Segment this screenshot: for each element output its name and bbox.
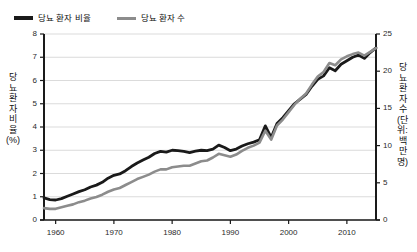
y-axis-right-title: 당뇨 환자 수(단위: 백만 명) bbox=[396, 62, 409, 167]
plot-area: 012345678 0510152025 1960197019801990200… bbox=[0, 0, 417, 252]
y-left-tick-2: 2 bbox=[25, 169, 37, 178]
y-left-tick-6: 6 bbox=[25, 76, 37, 85]
diabetes-trend-chart: 당뇨 환자 비율 당뇨 환자 수 012345678 0510152025 19… bbox=[0, 0, 417, 252]
y-left-tick-7: 7 bbox=[25, 52, 37, 61]
y-left-tick-3: 3 bbox=[25, 145, 37, 154]
y-left-tick-8: 8 bbox=[25, 29, 37, 38]
x-tick-1960: 1960 bbox=[39, 228, 73, 237]
series-lines bbox=[44, 48, 376, 209]
x-tick-2010: 2010 bbox=[330, 228, 364, 237]
y-left-tick-0: 0 bbox=[25, 215, 37, 224]
y-right-tick-25: 25 bbox=[383, 29, 399, 38]
plot-svg bbox=[0, 0, 417, 252]
y-right-tick-5: 5 bbox=[383, 178, 399, 187]
y-left-tick-4: 4 bbox=[25, 122, 37, 131]
x-tick-1970: 1970 bbox=[97, 228, 131, 237]
x-tick-2000: 2000 bbox=[272, 228, 306, 237]
x-tick-1990: 1990 bbox=[213, 228, 247, 237]
gridlines bbox=[44, 34, 376, 220]
x-tick-1980: 1980 bbox=[155, 228, 189, 237]
y-left-tick-1: 1 bbox=[25, 192, 37, 201]
y-right-tick-0: 0 bbox=[383, 215, 399, 224]
y-left-tick-5: 5 bbox=[25, 99, 37, 108]
y-axis-left-title: 당뇨 환자 비율(%) bbox=[6, 72, 19, 146]
